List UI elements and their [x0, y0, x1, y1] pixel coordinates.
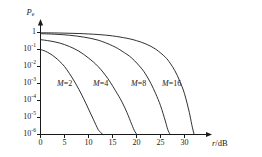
- curve-label-m-4: M=4: [93, 79, 108, 88]
- y-tick-label: 10-6: [23, 130, 36, 138]
- y-tick-label: 10-1: [23, 45, 36, 53]
- y-tick-label: 10-5: [23, 113, 36, 121]
- y-tick-label: 10-3: [23, 79, 36, 87]
- chart-figure: 110-110-210-310-410-510-6051015202530Per…: [0, 0, 262, 157]
- x-tick-label: 0: [32, 139, 50, 147]
- x-tick-label: 10: [80, 139, 98, 147]
- x-tick-label: 5: [56, 139, 74, 147]
- x-axis-label: r/dB: [212, 139, 228, 148]
- curve-label-m-2: M=2: [57, 79, 72, 88]
- curve-label-m-8: M=8: [131, 79, 146, 88]
- y-tick-label: 10-2: [23, 62, 36, 70]
- x-tick-label: 15: [104, 139, 122, 147]
- y-axis-label: Pe: [27, 8, 35, 17]
- x-tick-label: 20: [128, 139, 146, 147]
- x-tick-label: 30: [176, 139, 194, 147]
- curve-label-m-16: M=16: [162, 79, 181, 88]
- y-tick-label: 1: [32, 28, 36, 36]
- x-tick-label: 25: [152, 139, 170, 147]
- y-tick-label: 10-4: [23, 96, 36, 104]
- curve-m-4: [41, 40, 137, 135]
